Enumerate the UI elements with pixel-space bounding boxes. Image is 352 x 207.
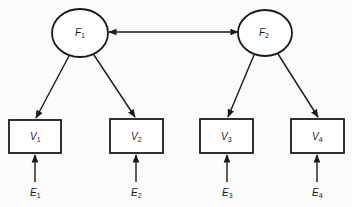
loading-arrow-f1-v2 [94, 55, 135, 117]
e4-label: E4 [312, 187, 323, 199]
sem-diagram: F1 F2 V1 V2 V3 V4 E1 E2 E3 E4 [0, 0, 352, 207]
observed-variable-v3: V3 [200, 119, 253, 153]
diagram-svg: F1 F2 V1 V2 V3 V4 E1 E2 E3 E4 [0, 0, 352, 207]
loading-arrow-f2-v4 [278, 54, 318, 117]
loading-arrow-f2-v3 [228, 55, 254, 117]
e1-label: E1 [30, 187, 41, 199]
e3-label: E3 [222, 187, 233, 199]
latent-factor-f1: F1 [52, 9, 108, 57]
observed-variable-v4: V4 [291, 119, 344, 153]
loading-arrow-f1-v1 [36, 56, 69, 118]
observed-variable-v2: V2 [110, 119, 163, 153]
e2-label: E2 [131, 187, 142, 199]
latent-factor-f2: F2 [238, 10, 292, 56]
observed-variable-v1: V1 [9, 120, 61, 153]
